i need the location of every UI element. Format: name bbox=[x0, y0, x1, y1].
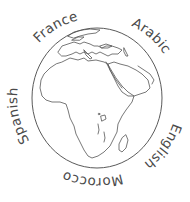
madagascar bbox=[119, 135, 128, 152]
label-arabic: Arabic bbox=[130, 14, 175, 56]
globe-illustration: France Arabic English Morocco Spanish bbox=[0, 0, 190, 202]
europe-landmass bbox=[58, 42, 122, 56]
label-morocco: Morocco bbox=[60, 168, 125, 191]
globe-svg: France Arabic English Morocco Spanish bbox=[0, 0, 190, 202]
lake-victoria bbox=[101, 115, 106, 121]
label-english: English bbox=[142, 122, 186, 173]
label-spanish: Spanish bbox=[4, 87, 32, 148]
lake-small bbox=[98, 113, 100, 115]
british-isles bbox=[72, 37, 84, 40]
caspian-sea bbox=[124, 48, 128, 56]
persian-gulf-coast bbox=[138, 66, 154, 84]
lake-tanganyika bbox=[98, 124, 99, 134]
italy bbox=[84, 50, 92, 59]
globe-outline bbox=[32, 28, 162, 168]
lake-malawi bbox=[104, 132, 105, 142]
